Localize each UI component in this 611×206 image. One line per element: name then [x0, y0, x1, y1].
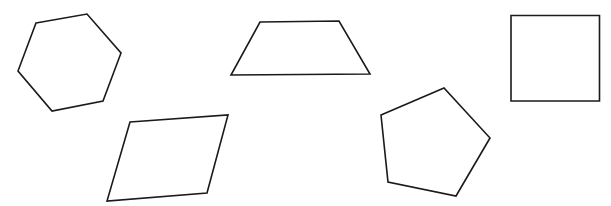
- shapes-canvas: [0, 0, 611, 206]
- hexagon-shape: [18, 14, 121, 111]
- parallelogram-shape: [107, 115, 228, 201]
- pentagon-shape: [381, 88, 490, 196]
- square-shape: [511, 16, 600, 102]
- trapezoid-shape: [231, 21, 370, 75]
